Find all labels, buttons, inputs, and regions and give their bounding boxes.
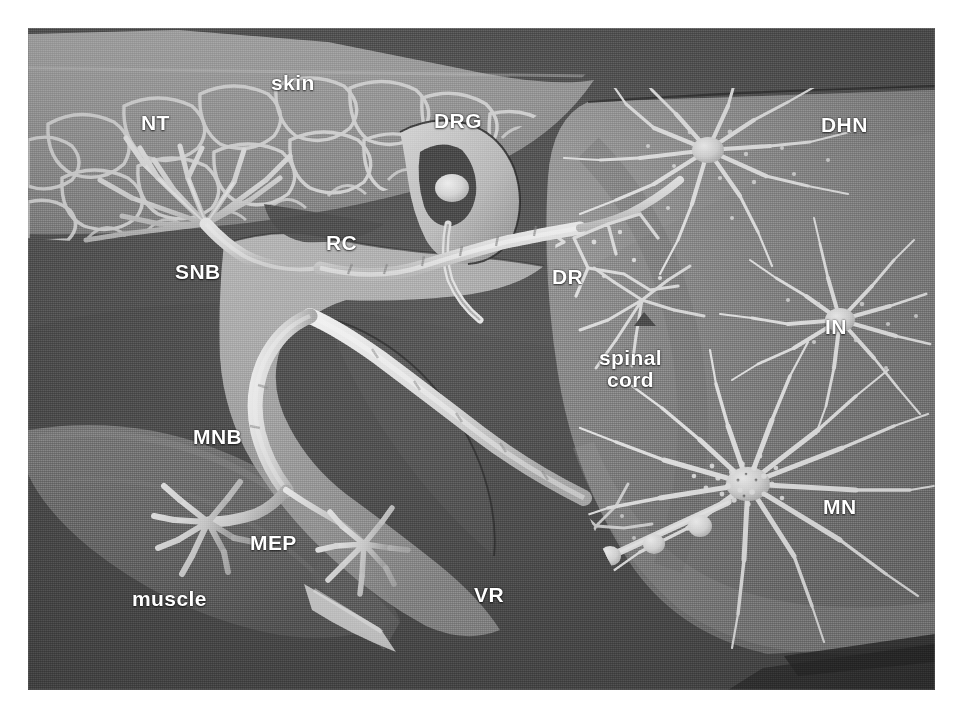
label-spinal-cord: spinal cord	[599, 347, 662, 392]
label-nt: NT	[141, 112, 170, 134]
figure-plate: skinNTDRGDHNRCSNBDRINspinal cordMNBMEPMN…	[28, 28, 935, 690]
label-skin: skin	[271, 72, 315, 94]
label-drg: DRG	[434, 110, 482, 132]
label-dr: DR	[552, 266, 583, 288]
label-vr: VR	[474, 584, 504, 606]
label-rc: RC	[326, 232, 357, 254]
label-snb: SNB	[175, 261, 221, 283]
label-dhn: DHN	[821, 114, 868, 136]
label-mnb: MNB	[193, 426, 242, 448]
label-muscle: muscle	[132, 588, 207, 610]
label-mn: MN	[823, 496, 856, 518]
label-in: IN	[825, 316, 847, 338]
label-mep: MEP	[250, 532, 297, 554]
